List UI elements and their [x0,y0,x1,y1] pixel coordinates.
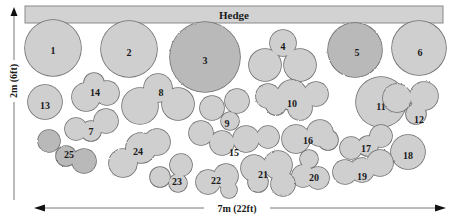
plant-number-label: 8 [159,87,164,98]
arrow-right-icon [435,205,446,212]
plant-lobe [318,130,338,150]
plant-21: 21 [240,150,296,197]
plant-number-label: 24 [133,146,143,157]
plant-lobe [383,84,411,112]
plant-number-label: 7 [89,126,94,137]
plant-2: 2 [100,20,158,78]
plant-number-label: 20 [309,172,319,183]
plant-number-label: 1 [51,45,56,56]
planting-plan: Hedge 2m (6ft) 7m (22ft) 123456789101112… [0,0,451,214]
plant-number-label: 18 [403,150,413,161]
plant-number-label: 21 [258,169,268,180]
plant-number-label: 12 [414,114,424,125]
plant-body [249,30,316,81]
plant-5: 5 [327,22,383,78]
height-dimension: 2m (6ft) [8,7,20,200]
plant-1: 1 [24,19,82,77]
plant-number-label: 15 [229,147,239,158]
plant-number-label: 3 [203,55,208,66]
plan-canvas: Hedge 2m (6ft) 7m (22ft) 123456789101112… [0,0,451,214]
plant-lobe [150,167,170,187]
plant-23: 23 [149,153,193,193]
plant-lobe [266,95,286,115]
plant-number-label: 6 [418,47,423,58]
arrow-up-icon [11,7,18,16]
plant-lobe [189,121,213,145]
plant-number-label: 25 [64,149,74,160]
plant-number-label: 23 [172,176,182,187]
plant-body [292,150,329,189]
plant-lobe [284,49,316,81]
plant-lobe [94,109,118,133]
hedge: Hedge [25,6,443,23]
plant-number-label: 19 [357,171,367,182]
plant-number-label: 9 [225,118,230,129]
plant-lobe [249,49,281,81]
plant-lobe [221,182,237,198]
width-dimension: 7m (22ft) [34,200,446,214]
plant-number-label: 17 [361,143,371,154]
plant-number-label: 10 [287,98,297,109]
plant-7: 7 [64,108,119,142]
plant-20: 20 [291,149,330,190]
plant-body [241,151,295,196]
plant-13: 13 [27,84,63,120]
plant-number-label: 5 [355,47,360,58]
plant-number-label: 14 [90,87,100,98]
plant-lobe [162,88,194,120]
height-dimension-label: 2m (6ft) [8,64,20,98]
plant-lobe [257,126,279,148]
plant-lobe [170,154,192,176]
plant-16: 16 [281,119,339,154]
plants-layer: 1234567891011121314151617181920212223242… [24,19,447,199]
plant-18: 18 [390,134,426,170]
plant-lobe [200,96,224,120]
plant-number-label: 4 [281,41,286,52]
plant-lobe [144,129,170,155]
plant-10: 10 [255,79,329,121]
hedge-label: Hedge [219,9,249,21]
plant-14: 14 [71,72,120,112]
plant-lobe [367,150,393,176]
plant-number-label: 13 [40,100,50,111]
plant-number-label: 16 [303,135,313,146]
plant-number-label: 22 [211,175,221,186]
plant-lobe [370,125,392,147]
plant-3: 3 [169,21,241,93]
plant-lobe [38,130,60,152]
plant-6: 6 [391,20,447,76]
plant-number-label: 2 [127,47,132,58]
plant-22: 22 [195,163,239,199]
width-dimension-label: 7m (22ft) [217,203,256,215]
plant-lobe [271,172,295,196]
arrow-left-icon [34,205,45,212]
plant-lobe [72,149,96,173]
plant-lobe [122,88,158,124]
plant-4: 4 [248,29,317,82]
plant-lobe [225,89,249,113]
